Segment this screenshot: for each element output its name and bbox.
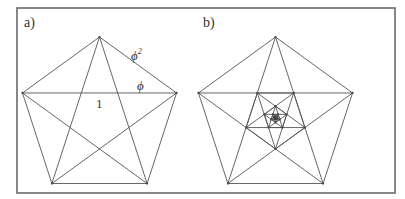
pentagon-side bbox=[198, 37, 275, 93]
vertex-dot bbox=[263, 113, 265, 115]
figure-frame bbox=[17, 8, 395, 193]
pentagon-side bbox=[198, 93, 227, 184]
vertex-dot bbox=[293, 92, 295, 94]
pentagon-side bbox=[276, 128, 305, 149]
pentagon-side bbox=[22, 37, 99, 93]
panel-b-lines bbox=[197, 36, 353, 185]
vertex-dot bbox=[277, 113, 279, 115]
panel-a-label: a) bbox=[24, 15, 35, 31]
pentagon-side bbox=[22, 93, 51, 184]
vertex-dot bbox=[322, 182, 324, 184]
vertex-dot bbox=[274, 148, 276, 150]
pentagon-side bbox=[276, 37, 353, 93]
vertex-dot bbox=[245, 126, 247, 128]
pentagram-diagonal bbox=[52, 93, 177, 184]
vertex-dot bbox=[175, 92, 177, 94]
vertex-dot bbox=[351, 92, 353, 94]
pentagon-side bbox=[246, 128, 275, 149]
vertex-dot bbox=[304, 126, 306, 128]
vertex-dot bbox=[51, 182, 53, 184]
vertex-dot bbox=[279, 118, 281, 120]
panel-a-pentagon-with-pentagram: a) ϕ2 ϕ 1 bbox=[21, 15, 177, 185]
pentagon-side bbox=[294, 93, 305, 128]
vertex-dot bbox=[256, 92, 258, 94]
vertex-dot bbox=[286, 113, 288, 115]
vertex-dot bbox=[275, 117, 277, 119]
vertex-dot bbox=[274, 105, 276, 107]
golden-ratio-pentagon-figure: a) ϕ2 ϕ 1 b) bbox=[0, 0, 405, 199]
pentagon-side bbox=[323, 93, 352, 184]
vertex-dot bbox=[272, 113, 274, 115]
pentagon-side bbox=[246, 93, 257, 128]
vertex-dot bbox=[274, 36, 276, 38]
label-phi-squared: ϕ2 bbox=[131, 47, 142, 63]
vertex-dot bbox=[197, 92, 199, 94]
vertex-dot bbox=[227, 182, 229, 184]
pentagram-diagonal bbox=[52, 37, 100, 184]
vertex-dot bbox=[270, 118, 272, 120]
pentagram-diagonal bbox=[22, 93, 147, 184]
pentagram-diagonal bbox=[100, 37, 148, 184]
panel-b-recursive-pentagrams: b) bbox=[197, 15, 353, 185]
pentagon-side bbox=[147, 93, 176, 184]
vertex-dot bbox=[281, 126, 283, 128]
vertex-dot bbox=[146, 182, 148, 184]
vertex-dot bbox=[267, 126, 269, 128]
label-phi: ϕ bbox=[137, 78, 144, 93]
vertex-dot bbox=[98, 36, 100, 38]
label-one: 1 bbox=[96, 96, 103, 111]
vertex-dot bbox=[21, 92, 23, 94]
vertex-dot bbox=[274, 121, 276, 123]
panel-b-label: b) bbox=[203, 15, 215, 31]
